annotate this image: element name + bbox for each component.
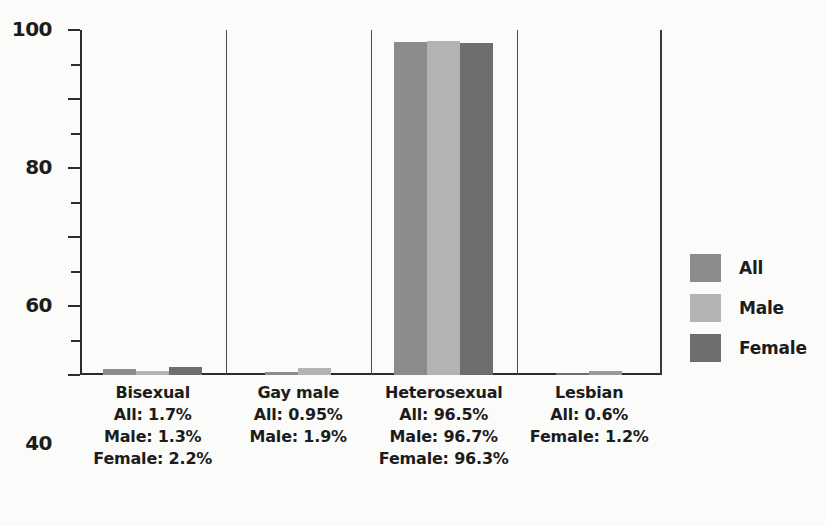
- legend-item-male: Male: [690, 288, 807, 328]
- plot-right-border: [660, 30, 662, 375]
- y-axis-line: [80, 30, 82, 375]
- group-stat-0: All: 0.95%: [226, 404, 372, 426]
- group-label-lesbian: LesbianAll: 0.6%Female: 1.2%: [517, 382, 663, 448]
- y-tick-major-60: 60: [68, 167, 80, 169]
- group-stat-1: Male: 1.9%: [226, 426, 372, 448]
- bar-heterosexual-female: [460, 43, 493, 375]
- y-tick-label-40: 40: [25, 431, 52, 455]
- bar-lesbian-female: [589, 371, 622, 375]
- legend-swatch-male: [690, 294, 721, 322]
- plot-area: 020406080100: [80, 30, 662, 375]
- group-stat-1: Male: 1.3%: [80, 426, 226, 448]
- bar-heterosexual-male: [427, 41, 460, 375]
- bar-chart-figure: 020406080100 BisexualAll: 1.7%Male: 1.3%…: [0, 0, 825, 526]
- group-stat-0: All: 0.6%: [517, 404, 663, 426]
- group-stat-1: Male: 96.7%: [371, 426, 517, 448]
- y-tick-major-40: 40: [68, 236, 80, 238]
- legend-swatch-all: [690, 254, 721, 282]
- bar-gay-male-all: [265, 372, 298, 375]
- group-stat-2: Female: 2.2%: [80, 448, 226, 470]
- group-label-bisexual: BisexualAll: 1.7%Male: 1.3%Female: 2.2%: [80, 382, 226, 470]
- group-separator-2: [371, 30, 372, 375]
- y-tick-minor-30: [71, 271, 80, 273]
- bar-bisexual-female: [169, 367, 202, 375]
- group-stat-0: All: 1.7%: [80, 404, 226, 426]
- y-tick-label-100: 100: [12, 17, 52, 41]
- y-tick-major-0: 0: [68, 374, 80, 376]
- group-separator-3: [517, 30, 518, 375]
- group-stat-2: Female: 96.3%: [371, 448, 517, 470]
- y-tick-label-80: 80: [25, 155, 52, 179]
- group-category-name: Lesbian: [517, 382, 663, 404]
- y-tick-major-80: 80: [68, 98, 80, 100]
- legend-swatch-female: [690, 334, 721, 362]
- legend-label-male: Male: [739, 298, 784, 318]
- bar-gay-male-male: [298, 368, 331, 375]
- bar-bisexual-all: [103, 369, 136, 375]
- bar-heterosexual-all: [394, 42, 427, 375]
- group-stat-0: All: 96.5%: [371, 404, 517, 426]
- group-label-heterosexual: HeterosexualAll: 96.5%Male: 96.7%Female:…: [371, 382, 517, 470]
- group-category-name: Bisexual: [80, 382, 226, 404]
- y-tick-major-100: 100: [68, 29, 80, 31]
- y-tick-major-20: 20: [68, 305, 80, 307]
- bar-bisexual-male: [136, 371, 169, 375]
- group-category-name: Gay male: [226, 382, 372, 404]
- legend-item-all: All: [690, 248, 807, 288]
- bar-lesbian-all: [556, 373, 589, 375]
- legend-label-female: Female: [739, 338, 807, 358]
- y-tick-minor-90: [71, 64, 80, 66]
- group-stat-1: Female: 1.2%: [517, 426, 663, 448]
- y-tick-minor-70: [71, 133, 80, 135]
- y-tick-minor-10: [71, 340, 80, 342]
- group-separator-1: [226, 30, 227, 375]
- legend-label-all: All: [739, 258, 763, 278]
- y-tick-label-60: 60: [25, 293, 52, 317]
- group-label-gay-male: Gay maleAll: 0.95%Male: 1.9%: [226, 382, 372, 448]
- chart-legend: AllMaleFemale: [690, 248, 807, 368]
- group-category-name: Heterosexual: [371, 382, 517, 404]
- y-tick-minor-50: [71, 202, 80, 204]
- legend-item-female: Female: [690, 328, 807, 368]
